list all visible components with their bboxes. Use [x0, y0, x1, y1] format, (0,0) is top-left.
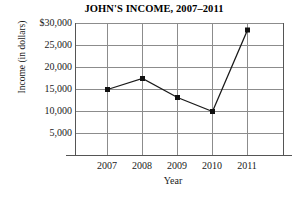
data-point-marker — [245, 28, 250, 33]
data-point-marker — [140, 76, 145, 81]
data-point-marker — [105, 87, 110, 92]
plot-area — [0, 0, 308, 199]
data-point-marker — [175, 95, 180, 100]
data-point-marker — [210, 109, 215, 114]
horizontal-gridlines — [75, 24, 283, 134]
income-line-chart: JOHN'S INCOME, 2007–2011 Income (in doll… — [0, 0, 308, 199]
